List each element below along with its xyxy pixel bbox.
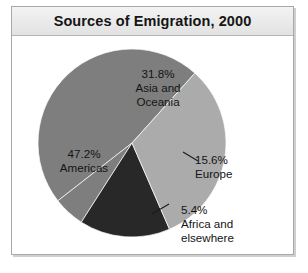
slice-name-americas: Americas (34, 161, 134, 175)
slice-value-africa: 5.4% (181, 203, 291, 217)
chart-plot-area: 31.8% Asia and Oceania 47.2% Americas 15… (12, 36, 293, 254)
slice-value-americas: 47.2% (34, 147, 134, 161)
pie-chart-figure: Sources of Emigration, 2000 31.8% As (0, 0, 308, 273)
slice-label-africa: 5.4% Africa and elsewhere (181, 203, 291, 245)
slice-name-asia-line1: Asia and (108, 81, 208, 95)
slice-name-africa-line2: elsewhere (181, 231, 291, 245)
chart-frame: Sources of Emigration, 2000 31.8% As (11, 6, 294, 255)
slice-label-europe: 15.6% Europe (195, 153, 287, 181)
slice-value-europe: 15.6% (195, 153, 287, 167)
slice-name-asia-line2: Oceania (108, 95, 208, 109)
slice-value-asia: 31.8% (108, 67, 208, 81)
slice-label-americas: 47.2% Americas (34, 147, 134, 175)
slice-name-europe: Europe (195, 167, 287, 181)
slice-name-africa-line1: Africa and (181, 217, 291, 231)
slice-label-asia: 31.8% Asia and Oceania (108, 67, 208, 109)
